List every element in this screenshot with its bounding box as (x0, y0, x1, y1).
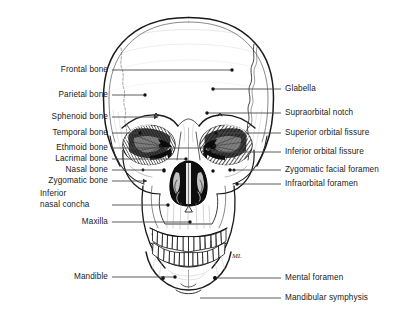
leader-dot-zygomatic-facial-foramen (228, 168, 231, 171)
artist-initials: ML (231, 252, 242, 260)
label-superior-orbital-fissure: Superior orbital fissure (285, 128, 369, 138)
label-frontal-bone: Frontal bone (61, 65, 108, 75)
leader-dot-frontal-bone (230, 68, 233, 71)
label-supraorbital-notch: Supraorbital notch (285, 108, 353, 118)
leader-dot-supraorbital-notch (205, 111, 208, 114)
label-maxilla: Maxilla (82, 217, 108, 227)
label-zygomatic-facial-foramen: Zygomatic facial foramen (285, 165, 379, 175)
label-zygomatic-bone: Zygomatic bone (48, 176, 108, 186)
leader-dot-inferior-nasal-concha (166, 203, 169, 206)
leader-dot-glabella (211, 87, 214, 90)
label-mental-foramen: Mental foramen (285, 273, 343, 283)
leader-dot-inferior-orbital-fissure (208, 150, 211, 153)
leader-dot-superior-orbital-fissure (214, 131, 217, 134)
leader-dot-mandible (173, 275, 176, 278)
label-lacrimal-bone: Lacrimal bone (55, 154, 108, 164)
label-inferior-nasal-concha-line1: Inferior (40, 188, 89, 199)
label-temporal-bone: Temporal bone (53, 128, 108, 138)
label-nasal-bone: Nasal bone (66, 165, 108, 175)
leader-dot-infraorbital-foramen (235, 182, 238, 185)
leader-dot-temporal-bone (138, 131, 141, 134)
label-mandible: Mandible (74, 272, 108, 282)
leader-dot-mental-foramen (213, 276, 216, 279)
label-inferior-nasal-concha-line2: nasal concha (40, 199, 89, 210)
leader-dot-lacrimal-bone (184, 157, 187, 160)
skull-anatomy-figure: ML Frontal boneParietal boneSphenoid bon… (0, 0, 399, 317)
leader-dot-parietal-bone (143, 93, 146, 96)
label-inferior-nasal-concha: Inferior nasal concha (40, 188, 89, 210)
label-sphenoid-bone: Sphenoid bone (52, 112, 108, 122)
label-infraorbital-foramen: Infraorbital foramen (285, 179, 358, 189)
leader-dot-nasal-bone (162, 168, 165, 171)
leader-dot-ethmoid-bone (203, 146, 206, 149)
label-parietal-bone: Parietal bone (58, 90, 108, 100)
label-inferior-orbital-fissure: Inferior orbital fissure (285, 147, 364, 157)
leader-arrow-zygomatic-bone (143, 179, 147, 183)
leader-dot-maxilla (188, 220, 191, 223)
label-mandibular-symphysis: Mandibular symphysis (285, 293, 368, 303)
label-ethmoid-bone: Ethmoid bone (56, 143, 108, 153)
label-glabella: Glabella (285, 84, 316, 94)
